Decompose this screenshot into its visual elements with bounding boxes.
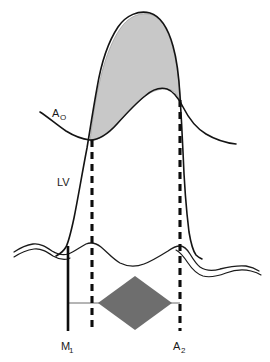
aortic-pressure-label-subscript: O — [60, 113, 66, 122]
m1-label-subscript: 1 — [69, 346, 74, 355]
a2-label-text: A — [173, 340, 181, 352]
figure-root: A O LV M 1 A 2 — [0, 0, 270, 362]
systolic-ejection-murmur-diamond — [98, 276, 172, 330]
a2-label-subscript: 2 — [181, 346, 186, 355]
m1-label: M 1 — [61, 340, 74, 355]
pressure-tracing-diagram: A O LV M 1 A 2 — [0, 0, 270, 362]
aortic-pressure-label-text: A — [52, 107, 60, 119]
a2-label: A 2 — [173, 340, 186, 355]
aortic-pressure-label: A O — [52, 107, 66, 122]
lv-pressure-label: LV — [57, 176, 70, 188]
pressure-gradient-shaded-area — [90, 14, 181, 141]
phonocardiogram-trace — [14, 243, 259, 271]
phonocardiogram-secondary-trace — [14, 249, 261, 277]
